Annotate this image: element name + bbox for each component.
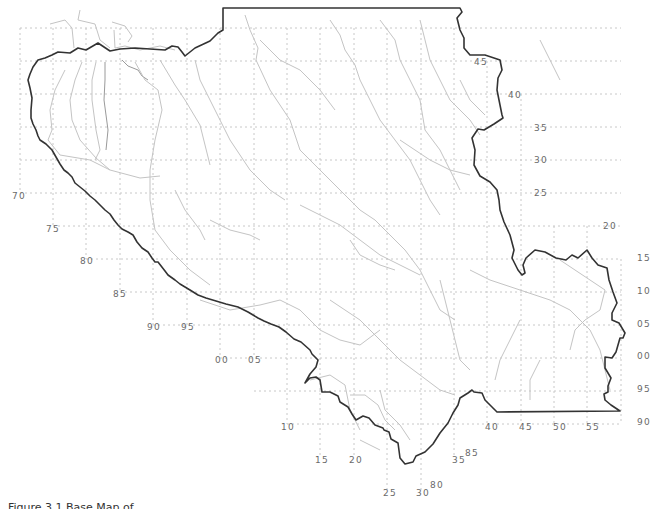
label-right-15: 15 [637, 253, 651, 263]
label-left-95: 95 [181, 322, 195, 332]
label-bottom-80: 80 [430, 480, 444, 490]
label-bottom-20: 20 [349, 455, 363, 465]
map-canvas: 45 40 35 30 25 20 15 10 05 00 95 90 70 7… [0, 0, 662, 509]
figure-caption: Figure 3.1 Base Map of ... [8, 499, 148, 509]
label-right-05: 05 [637, 319, 651, 329]
label-bottom-10: 10 [281, 422, 295, 432]
label-bottom-45: 45 [519, 422, 533, 432]
label-left-75: 75 [46, 224, 60, 234]
rivers [48, 10, 610, 450]
graticule-grid [20, 28, 621, 490]
label-left-85: 85 [113, 289, 127, 299]
label-bottom-35: 35 [452, 455, 466, 465]
label-bottom-40: 40 [485, 422, 499, 432]
label-right-45: 45 [474, 57, 488, 67]
label-left-70: 70 [12, 191, 26, 201]
label-left-00: 00 [215, 355, 229, 365]
label-bottom-15: 15 [315, 455, 329, 465]
label-left-80: 80 [80, 256, 94, 266]
label-bottom-55: 55 [586, 422, 600, 432]
label-left-90: 90 [147, 322, 161, 332]
label-left-05: 05 [248, 355, 262, 365]
region-boundary [28, 8, 625, 464]
label-bottom-50: 50 [553, 422, 567, 432]
label-right-30: 30 [534, 155, 548, 165]
label-right-35: 35 [534, 123, 548, 133]
label-bottom-30: 30 [416, 488, 430, 498]
label-right-90: 90 [637, 417, 651, 427]
label-bottom-85: 85 [465, 448, 479, 458]
label-right-25: 25 [534, 188, 548, 198]
graticule-labels: 45 40 35 30 25 20 15 10 05 00 95 90 70 7… [12, 57, 651, 498]
label-right-95: 95 [637, 384, 651, 394]
label-bottom-25: 25 [383, 488, 397, 498]
label-right-40: 40 [508, 90, 522, 100]
label-right-10: 10 [637, 286, 651, 296]
label-right-20: 20 [603, 221, 617, 231]
label-right-00: 00 [637, 351, 651, 361]
